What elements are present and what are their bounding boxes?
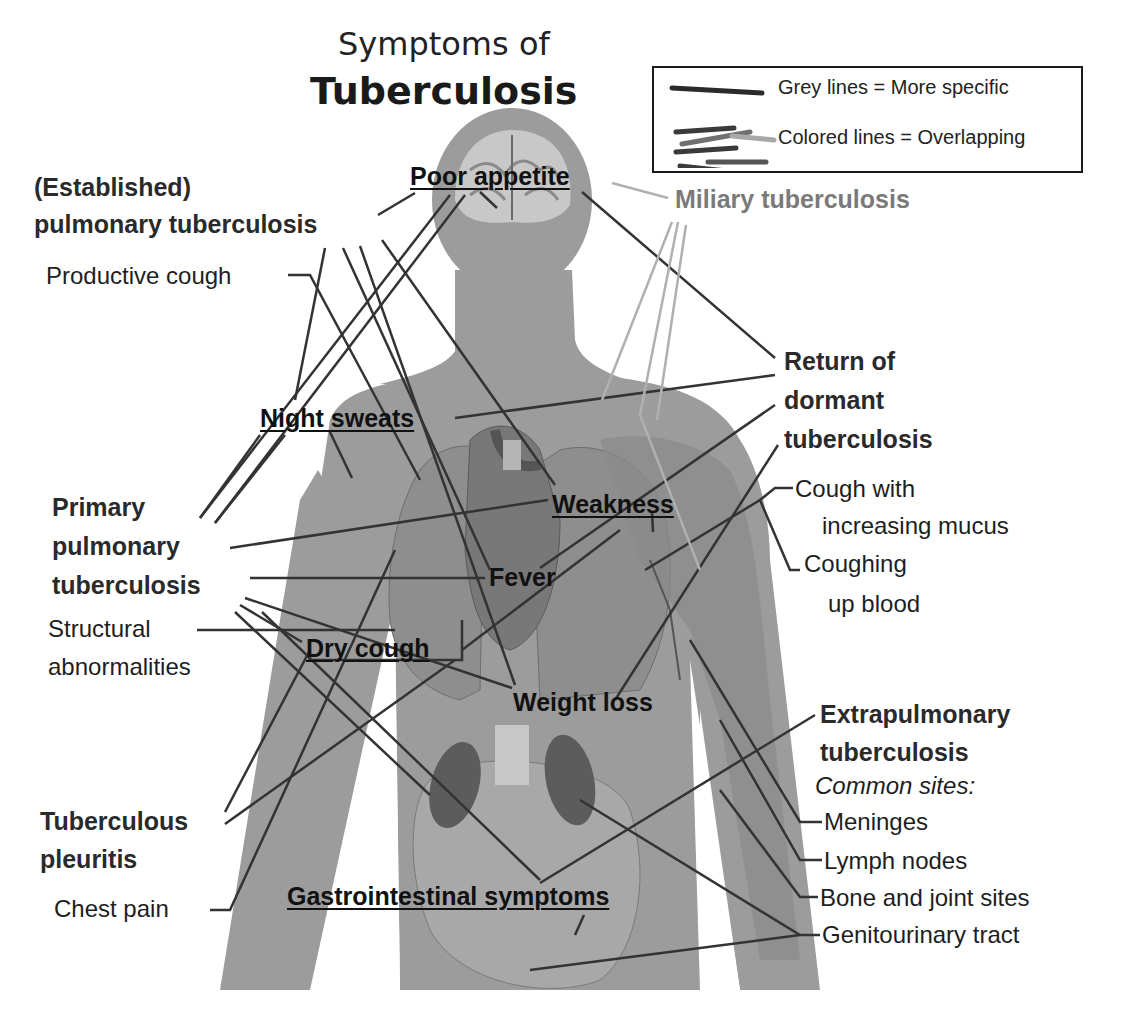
- symptom-night-sweats: Night sweats: [260, 404, 414, 433]
- label-extrapulmonary-line2: tuberculosis: [820, 738, 969, 767]
- symptom-weight-loss: Weight loss: [513, 688, 653, 717]
- label-return-dormant-line2: dormant: [784, 386, 884, 415]
- symptom-chest-pain: Chest pain: [54, 895, 169, 923]
- site-bone-joint: Bone and joint sites: [820, 884, 1029, 912]
- label-primary-line1: Primary: [52, 493, 145, 522]
- label-pleuritis-line2: pleuritis: [40, 845, 137, 874]
- legend-label-grey: Grey lines = More specific: [778, 76, 1009, 99]
- label-established-line1: (Established): [34, 173, 191, 202]
- label-return-dormant-line1: Return of: [784, 347, 895, 376]
- diagram-title-line2: Tuberculosis: [310, 70, 577, 114]
- symptom-dry-cough: Dry cough: [306, 634, 430, 663]
- label-primary-line2: pulmonary: [52, 532, 180, 561]
- legend-label-colored: Colored lines = Overlapping: [778, 126, 1025, 149]
- symptom-gastrointestinal: Gastrointestinal symptoms: [287, 882, 609, 911]
- label-extrapulmonary-line1: Extrapulmonary: [820, 700, 1010, 729]
- legend-box: Grey lines = More specific Colored lines…: [652, 66, 1083, 173]
- site-lymph-nodes: Lymph nodes: [824, 847, 967, 875]
- label-miliary: Miliary tuberculosis: [675, 185, 910, 214]
- symptom-coughing-blood-line2: up blood: [828, 590, 920, 618]
- symptom-cough-mucus-line2: increasing mucus: [822, 512, 1009, 540]
- symptom-weakness: Weakness: [552, 490, 674, 519]
- symptom-structural-line2: abnormalities: [48, 653, 191, 681]
- label-return-dormant-line3: tuberculosis: [784, 425, 933, 454]
- legend-swatches: [662, 68, 792, 168]
- symptom-structural-line1: Structural: [48, 615, 151, 643]
- multi-colored-lines-icon: [676, 128, 774, 168]
- symptom-coughing-blood-line1: Coughing: [804, 550, 907, 578]
- label-established-line2: pulmonary tuberculosis: [34, 210, 317, 239]
- symptom-fever: Fever: [489, 563, 556, 592]
- site-meninges: Meninges: [824, 808, 928, 836]
- label-primary-line3: tuberculosis: [52, 571, 201, 600]
- symptom-poor-appetite: Poor appetite: [410, 162, 570, 191]
- label-common-sites: Common sites:: [815, 772, 975, 800]
- label-pleuritis-line1: Tuberculous: [40, 807, 188, 836]
- diagram-title-line1: Symptoms of: [338, 26, 550, 63]
- symptom-cough-mucus-line1: Cough with: [795, 475, 915, 503]
- symptom-productive-cough: Productive cough: [46, 262, 231, 290]
- site-genitourinary: Genitourinary tract: [822, 921, 1019, 949]
- single-dark-line-icon: [672, 88, 762, 93]
